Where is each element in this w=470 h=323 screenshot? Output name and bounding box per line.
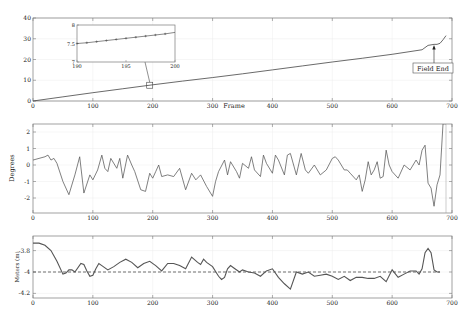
- inset-connector-line: [145, 62, 150, 82]
- x-tick-label: 400: [267, 214, 279, 221]
- x-tick-label: 100: [87, 299, 99, 306]
- field-end-annotation: Field End: [413, 45, 453, 73]
- x-tick-label: 700: [446, 299, 458, 306]
- x-tick-label: 600: [386, 299, 398, 306]
- x-tick-label: 200: [147, 214, 159, 221]
- x-tick-label: 0: [31, 214, 35, 221]
- inset-axes-box: [77, 25, 175, 62]
- y-tick-label: 1: [26, 145, 30, 152]
- x-tick-label: 500: [327, 102, 339, 109]
- y-tick-label: 20: [23, 56, 31, 63]
- panel-degrees: 0100200300400500600700210-1-2 Degrees: [8, 124, 458, 221]
- y-tick-label: 2: [26, 128, 30, 135]
- inset-y-tick-label: 7: [72, 59, 75, 65]
- y-tick-label: -2: [24, 194, 30, 201]
- panel1-xlabel: Frame: [223, 102, 245, 110]
- x-tick-label: 200: [147, 102, 159, 109]
- x-tick-label: 300: [207, 214, 219, 221]
- field-end-label: Field End: [417, 65, 449, 73]
- y-tick-label: 0: [26, 161, 30, 168]
- x-tick-label: 300: [207, 299, 219, 306]
- inset-x-tick-label: 195: [121, 63, 131, 69]
- inset-y-tick-label: 8: [72, 22, 75, 28]
- y-tick-label: 40: [23, 14, 31, 21]
- x-tick-label: 300: [207, 102, 219, 109]
- x-tick-label: 500: [327, 214, 339, 221]
- x-tick-label: 700: [446, 214, 458, 221]
- y-tick-label: 0: [27, 97, 31, 104]
- x-tick-label: 700: [446, 102, 458, 109]
- y-tick-label: -4: [24, 268, 30, 275]
- x-tick-label: 0: [31, 102, 35, 109]
- y-tick-label: -4.2: [18, 289, 30, 296]
- figure: 0100200300400500600700010203040 Frame 19…: [0, 0, 470, 323]
- field-end-arrow-head: [432, 45, 435, 50]
- panel2-ylabel: Degrees: [8, 154, 16, 181]
- x-tick-label: 600: [386, 214, 398, 221]
- x-tick-label: 100: [87, 214, 99, 221]
- inset-x-tick-label: 200: [170, 63, 180, 69]
- panel3-series-line: [33, 243, 440, 289]
- x-tick-label: 400: [267, 299, 279, 306]
- panel3-grid: [33, 236, 452, 298]
- panel-cumulative: 0100200300400500600700010203040 Frame 19…: [23, 14, 458, 110]
- panel3-ylabel: Meters (m): [14, 251, 20, 282]
- panel2-axes-box: [33, 124, 452, 213]
- x-tick-label: 0: [31, 299, 35, 306]
- y-tick-label: 30: [23, 35, 31, 42]
- inset-plot: 19019520077.58: [67, 22, 180, 69]
- panel3-axes-box: [33, 236, 452, 298]
- x-tick-label: 400: [267, 102, 279, 109]
- panel-meters: 0100200300400500600700-3.8-4-4.2 Meters …: [14, 236, 458, 306]
- y-tick-label: -3.8: [18, 247, 30, 254]
- panel2-grid: [33, 124, 452, 213]
- y-tick-label: 10: [23, 76, 31, 83]
- x-tick-label: 100: [87, 102, 99, 109]
- x-tick-label: 500: [327, 299, 339, 306]
- x-tick-label: 600: [386, 102, 398, 109]
- x-tick-label: 200: [147, 299, 159, 306]
- inset-y-tick-label: 7.5: [67, 41, 75, 47]
- y-tick-label: -1: [24, 178, 30, 185]
